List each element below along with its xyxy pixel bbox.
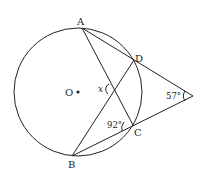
- chord-a-c: [82, 28, 133, 125]
- chord-b-d: [72, 60, 134, 156]
- label-d: D: [135, 53, 143, 64]
- secant-b-p: [72, 96, 193, 156]
- label-b: B: [68, 159, 75, 170]
- angle-label-57: 57°: [166, 91, 181, 101]
- angle-arc-x: [106, 84, 109, 94]
- label-c: C: [134, 127, 142, 138]
- center-dot: [76, 90, 79, 93]
- label-a: A: [76, 16, 85, 27]
- angle-label-x: x: [98, 84, 103, 94]
- geometry-diagram: A D C B O 57° 92° x: [0, 0, 205, 176]
- angle-label-92: 92°: [107, 120, 122, 130]
- angle-arc-p: [183, 91, 185, 101]
- label-o: O: [65, 87, 73, 98]
